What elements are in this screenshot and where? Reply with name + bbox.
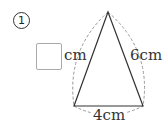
problem-number: 1 xyxy=(13,12,30,29)
base-label: 4cm xyxy=(92,108,126,123)
right-side-label: 6cm xyxy=(130,48,162,63)
unknown-side-unit: cm xyxy=(64,48,87,63)
answer-input-box[interactable] xyxy=(36,43,62,70)
